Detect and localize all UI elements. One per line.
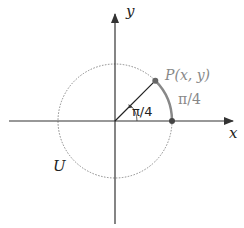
point-p xyxy=(152,78,158,84)
arc-segment xyxy=(155,81,172,121)
y-axis-label: y xyxy=(125,2,135,20)
angle-label: π/4 xyxy=(132,104,152,119)
point-p-label: P(x, y) xyxy=(164,67,210,83)
point-one-zero xyxy=(169,118,175,124)
circle-label: U xyxy=(53,157,67,175)
x-axis-label: x xyxy=(229,124,238,142)
unit-circle-diagram: y x P(x, y) π/4 π/4 U xyxy=(0,0,244,228)
arc-length-label: π/4 xyxy=(178,91,201,107)
